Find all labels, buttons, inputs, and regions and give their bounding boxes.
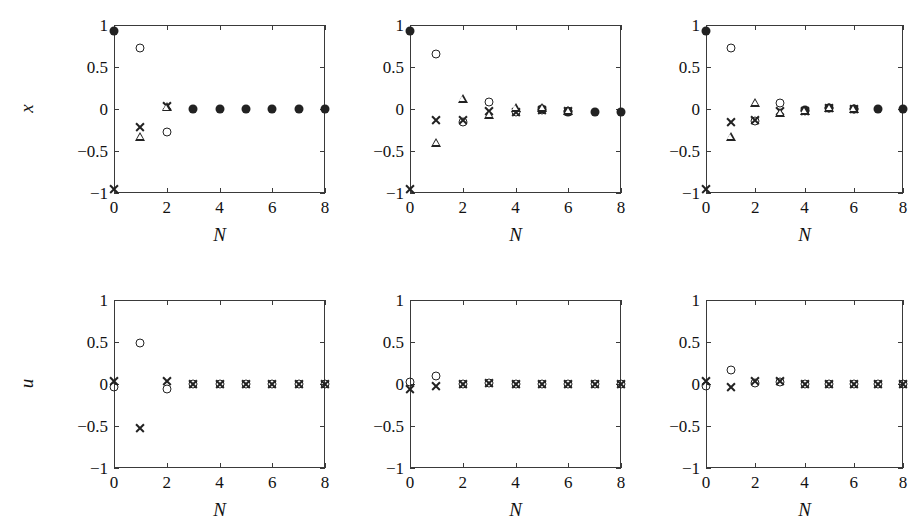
x-tick-mark: [220, 188, 221, 193]
y-tick-mark: [706, 300, 711, 301]
marker-triangle: [431, 138, 441, 147]
y-tick-mark: [320, 300, 325, 301]
y-tick-label: 0: [348, 376, 404, 393]
x-tick-label: 8: [617, 474, 626, 491]
x-tick-mark: [463, 25, 464, 30]
marker-filled-circle: [899, 105, 908, 114]
marker-triangle: [458, 94, 468, 103]
x-tick-label: 6: [850, 474, 859, 491]
x-tick-mark: [755, 188, 756, 193]
x-tick-label: 4: [511, 199, 520, 216]
marker-cross: [241, 379, 251, 389]
y-tick-mark: [616, 25, 621, 26]
marker-cross: [405, 184, 415, 194]
marker-cross: [135, 423, 145, 433]
marker-triangle: [162, 102, 172, 111]
marker-open-circle: [136, 43, 145, 52]
marker-triangle: [135, 132, 145, 141]
y-tick-label: 0.5: [644, 334, 700, 351]
x-axis-label: N: [509, 225, 522, 244]
y-axis-label: u: [17, 374, 36, 394]
x-tick-mark: [805, 25, 806, 30]
x-tick-mark: [854, 25, 855, 30]
x-tick-mark: [272, 188, 273, 193]
y-tick-mark: [616, 468, 621, 469]
x-axis-label: N: [213, 225, 226, 244]
y-tick-mark: [114, 426, 119, 427]
y-tick-mark: [898, 151, 903, 152]
x-tick-label: 4: [511, 474, 520, 491]
marker-filled-circle: [215, 105, 224, 114]
x-tick-mark: [167, 188, 168, 193]
y-tick-mark: [616, 342, 621, 343]
x-tick-mark: [621, 25, 622, 30]
marker-cross: [701, 184, 711, 194]
marker-open-circle: [136, 338, 145, 347]
marker-triangle: [511, 103, 521, 112]
x-tick-label: 2: [459, 474, 468, 491]
x-tick-label: 8: [321, 474, 330, 491]
marker-filled-circle: [321, 105, 330, 114]
x-tick-mark: [755, 25, 756, 30]
y-tick-label: 0.5: [52, 59, 108, 76]
y-tick-mark: [114, 342, 119, 343]
x-axis-label: N: [798, 225, 811, 244]
y-tick-label: −0.5: [348, 418, 404, 435]
y-tick-label: −1: [644, 460, 700, 477]
x-tick-mark: [167, 463, 168, 468]
marker-filled-circle: [617, 107, 626, 116]
marker-cross: [800, 379, 810, 389]
x-tick-mark: [568, 188, 569, 193]
marker-cross: [616, 379, 626, 389]
marker-cross: [484, 378, 494, 388]
marker-open-circle: [162, 127, 171, 136]
x-tick-label: 8: [899, 199, 908, 216]
x-tick-label: 0: [110, 199, 119, 216]
x-tick-mark: [568, 300, 569, 305]
y-axis-label: x: [17, 99, 36, 119]
x-tick-mark: [903, 188, 904, 193]
marker-triangle: [750, 98, 760, 107]
marker-cross: [824, 379, 834, 389]
marker-cross: [405, 384, 415, 394]
y-tick-label: −1: [348, 185, 404, 202]
marker-open-circle: [726, 365, 735, 374]
y-tick-mark: [898, 67, 903, 68]
x-tick-mark: [516, 188, 517, 193]
y-tick-mark: [898, 300, 903, 301]
y-tick-label: 1: [644, 17, 700, 34]
x-tick-mark: [805, 463, 806, 468]
x-tick-label: 6: [564, 474, 573, 491]
x-tick-mark: [463, 188, 464, 193]
marker-triangle: [537, 103, 547, 112]
marker-cross: [294, 379, 304, 389]
x-tick-label: 8: [617, 199, 626, 216]
marker-cross: [162, 376, 172, 386]
y-tick-mark: [898, 193, 903, 194]
marker-cross: [511, 379, 521, 389]
marker-cross: [109, 376, 119, 386]
y-tick-mark: [898, 468, 903, 469]
y-tick-label: −0.5: [52, 418, 108, 435]
marker-cross: [873, 379, 883, 389]
x-tick-mark: [621, 188, 622, 193]
y-tick-mark: [616, 300, 621, 301]
marker-triangle: [484, 110, 494, 119]
marker-triangle: [563, 106, 573, 115]
marker-triangle: [775, 108, 785, 117]
y-tick-mark: [706, 426, 711, 427]
y-tick-mark: [410, 109, 415, 110]
marker-cross: [849, 379, 859, 389]
marker-filled-circle: [406, 26, 415, 35]
y-tick-label: 0.5: [348, 59, 404, 76]
marker-cross: [726, 117, 736, 127]
x-tick-label: 2: [163, 199, 172, 216]
marker-open-circle: [432, 372, 441, 381]
marker-cross: [188, 379, 198, 389]
marker-filled-circle: [702, 26, 711, 35]
x-tick-mark: [621, 300, 622, 305]
marker-cross: [458, 115, 468, 125]
y-tick-mark: [706, 342, 711, 343]
x-tick-mark: [516, 300, 517, 305]
x-tick-label: 4: [215, 199, 224, 216]
